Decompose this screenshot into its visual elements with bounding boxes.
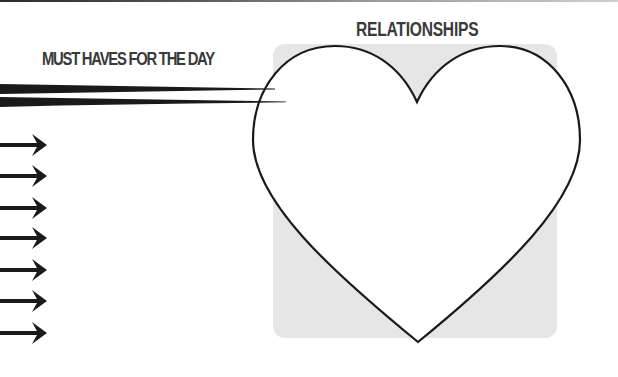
- brush-streak-lower: [0, 97, 286, 107]
- arrow-list: [0, 134, 47, 344]
- arrow-icon: [0, 227, 47, 249]
- brush-streaks: [0, 84, 286, 107]
- arrow-icon: [0, 165, 47, 187]
- arrow-icon: [0, 259, 47, 281]
- arrow-icon: [0, 134, 47, 156]
- brush-streak-upper: [0, 84, 275, 94]
- arrow-icon: [0, 197, 47, 219]
- arrow-icon: [0, 290, 47, 312]
- arrow-icon: [0, 322, 47, 344]
